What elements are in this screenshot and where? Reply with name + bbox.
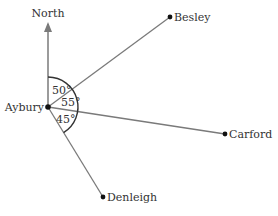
label-carford: Carford — [229, 128, 272, 141]
north-arrowhead-icon — [44, 22, 52, 32]
north-label: North — [31, 7, 64, 20]
angle-label-55: 55° — [61, 96, 81, 109]
point-carford — [223, 132, 228, 137]
angle-label-45: 45° — [56, 113, 76, 126]
point-denleigh — [101, 195, 106, 200]
label-besley: Besley — [174, 11, 211, 24]
point-besley — [168, 15, 173, 20]
bearing-diagram: North 50° 55° 45° Aybury Besley Carford … — [0, 0, 278, 216]
label-aybury: Aybury — [4, 101, 45, 114]
label-denleigh: Denleigh — [107, 191, 157, 204]
point-aybury — [45, 104, 51, 110]
